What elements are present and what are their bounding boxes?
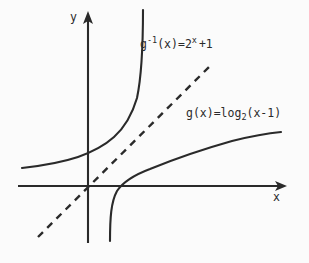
y-axis <box>83 11 93 243</box>
label-log-prefix: g(x)=log <box>186 106 241 120</box>
axis-label-y: y <box>70 12 77 24</box>
x-axis <box>18 181 287 191</box>
reflection-line-y-equals-x <box>38 63 213 237</box>
curve-exponential <box>22 10 143 168</box>
axis-label-x: x <box>273 192 280 204</box>
label-exp-suffix: +1 <box>199 37 213 51</box>
label-exp-middle: (x)=2 <box>157 37 192 51</box>
curve-label-logarithm: g(x)=log2(x-1) <box>186 108 281 122</box>
label-exp-power: x <box>192 35 197 45</box>
label-log-suffix: (x-1) <box>247 106 282 120</box>
label-exp-prefix: g <box>140 37 147 51</box>
math-figure: y x g-1(x)=2x+1 g(x)=log2(x-1) <box>0 0 309 263</box>
curve-label-exponential: g-1(x)=2x+1 <box>140 36 213 50</box>
label-exp-inverse-exponent: -1 <box>147 35 157 45</box>
